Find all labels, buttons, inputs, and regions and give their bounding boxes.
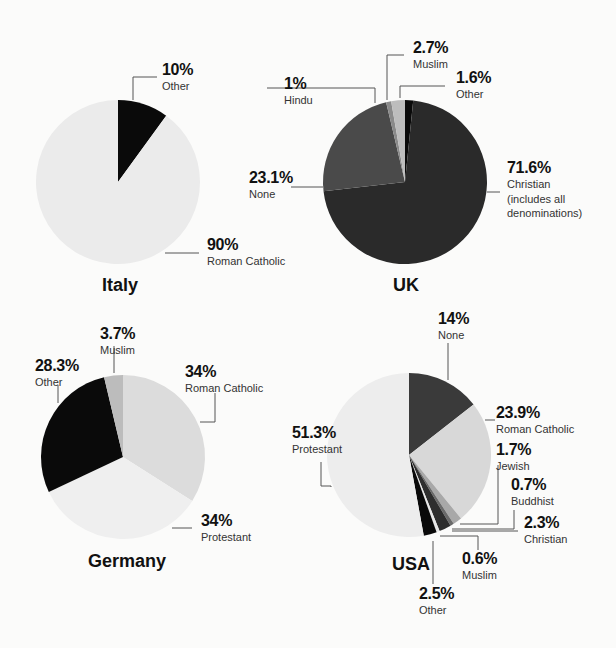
category: Other	[456, 88, 491, 102]
label-italy-catholic: 90% Roman Catholic	[207, 237, 285, 269]
category: Hindu	[284, 94, 313, 108]
label-uk-christian: 71.6% Christian (includes all denominati…	[507, 160, 582, 221]
pct: 71.6%	[507, 160, 582, 177]
label-usa-christian: 2.3% Christian	[524, 515, 567, 547]
label-germany-protestant: 34% Protestant	[201, 513, 251, 545]
pct: 1%	[284, 76, 313, 93]
category: None	[249, 188, 293, 202]
pct: 1.7%	[496, 442, 531, 459]
label-germany-catholic: 34% Roman Catholic	[185, 364, 263, 396]
title-germany: Germany	[88, 551, 166, 572]
label-usa-other: 2.5% Other	[419, 586, 454, 618]
label-usa-catholic: 23.9% Roman Catholic	[496, 405, 574, 437]
category: Roman Catholic	[207, 255, 285, 269]
title-italy: Italy	[102, 275, 138, 296]
category: Roman Catholic	[496, 423, 574, 437]
label-uk-other: 1.6% Other	[456, 70, 491, 102]
pct: 34%	[185, 364, 263, 381]
category-note: denominations)	[507, 207, 582, 221]
leader-italy-other	[133, 77, 157, 100]
pct: 3.7%	[100, 326, 135, 343]
pct: 34%	[201, 513, 251, 530]
label-usa-muslim: 0.6% Muslim	[462, 551, 497, 583]
label-germany-muslim: 3.7% Muslim	[100, 326, 135, 358]
label-uk-muslim: 2.7% Muslim	[413, 40, 448, 72]
category: Muslim	[462, 569, 497, 583]
label-italy-other: 10% Other	[162, 62, 193, 94]
pct: 2.3%	[524, 515, 567, 532]
pct: 90%	[207, 237, 285, 254]
pct: 1.6%	[456, 70, 491, 87]
leader-germany-catholic	[200, 393, 215, 422]
pct: 28.3%	[35, 358, 79, 375]
label-usa-protestant: 51.3% Protestant	[292, 425, 342, 457]
label-uk-none: 23.1% None	[249, 170, 293, 202]
pct: 2.7%	[413, 40, 448, 57]
pct: 23.1%	[249, 170, 293, 187]
title-uk: UK	[393, 275, 419, 296]
category: Buddhist	[511, 495, 554, 509]
category: None	[438, 329, 469, 343]
title-usa: USA	[392, 554, 430, 575]
category-note: (includes all	[507, 193, 582, 207]
label-usa-none: 14% None	[438, 311, 469, 343]
pct: 0.6%	[462, 551, 497, 568]
label-uk-hindu: 1% Hindu	[284, 76, 313, 108]
category: Roman Catholic	[185, 382, 263, 396]
pct: 51.3%	[292, 425, 342, 442]
category: Muslim	[413, 58, 448, 72]
leader-usa-muslim	[440, 536, 478, 550]
label-germany-other: 28.3% Other	[35, 358, 79, 390]
category: Christian	[524, 533, 567, 547]
pct: 14%	[438, 311, 469, 328]
category: Other	[162, 80, 193, 94]
pie-usa	[327, 373, 491, 537]
pie-germany	[41, 375, 205, 539]
category: Muslim	[100, 344, 135, 358]
pie-italy	[36, 100, 200, 264]
leader-uk-other	[400, 86, 445, 98]
category: Jewish	[496, 460, 531, 474]
pct: 10%	[162, 62, 193, 79]
label-usa-buddhist: 0.7% Buddhist	[511, 477, 554, 509]
pct: 0.7%	[511, 477, 554, 494]
pct: 23.9%	[496, 405, 574, 422]
category: Other	[35, 376, 79, 390]
leader-uk-muslim	[387, 55, 404, 100]
category: Protestant	[201, 531, 251, 545]
pct: 2.5%	[419, 586, 454, 603]
category: Other	[419, 604, 454, 618]
category: Protestant	[292, 443, 342, 457]
pie-uk	[323, 100, 487, 264]
label-usa-jewish: 1.7% Jewish	[496, 442, 531, 474]
category: Christian	[507, 178, 582, 192]
